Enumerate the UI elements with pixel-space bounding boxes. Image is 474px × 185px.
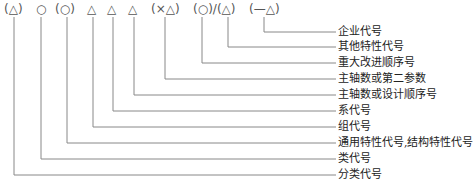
connector-line bbox=[134, 17, 336, 95]
code-symbol: (○) bbox=[55, 2, 75, 16]
code-symbol: (×△) bbox=[151, 2, 180, 16]
code-symbol: (—△) bbox=[249, 2, 280, 16]
code-part-label: 分类代号 bbox=[338, 169, 382, 181]
code-part-label: 组代号 bbox=[338, 121, 371, 133]
connector-line bbox=[113, 17, 336, 111]
connector-line bbox=[202, 17, 336, 63]
code-symbol: △ bbox=[107, 2, 116, 16]
connector-line bbox=[14, 17, 336, 175]
code-part-label: 通用特性代号,结构特性代号 bbox=[338, 137, 474, 149]
code-symbol: ○ bbox=[36, 2, 46, 16]
code-symbol: △ bbox=[128, 2, 137, 16]
code-symbol: (△) bbox=[4, 2, 23, 16]
code-symbol: △ bbox=[87, 2, 96, 16]
code-symbol: (○)/(△) bbox=[193, 2, 235, 16]
code-part-label: 主轴数或第二参数 bbox=[338, 73, 426, 85]
code-part-label: 其他特性代号 bbox=[338, 41, 404, 53]
code-part-label: 重大改进顺序号 bbox=[338, 57, 415, 69]
connector-line bbox=[165, 17, 336, 79]
code-part-label: 类代号 bbox=[338, 153, 371, 165]
code-part-label: 系代号 bbox=[338, 105, 371, 117]
connector-line bbox=[41, 17, 336, 159]
code-part-label: 企业代号 bbox=[338, 26, 382, 38]
connector-line bbox=[264, 17, 336, 32]
code-part-label: 主轴数或设计顺序号 bbox=[338, 89, 437, 101]
